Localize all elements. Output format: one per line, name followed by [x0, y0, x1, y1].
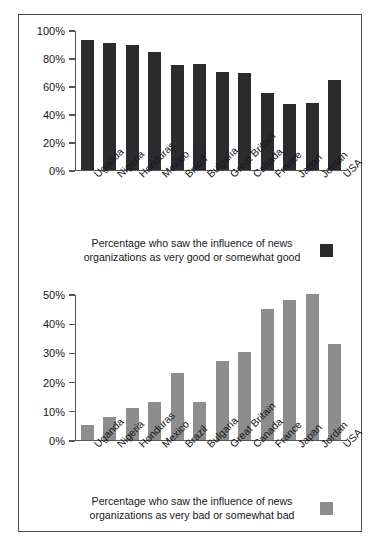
legend-swatch-bad	[320, 502, 333, 515]
chart-panel-bad: 0%10%20%30%40%50% UgandaNigeriaHondurasM…	[19, 277, 363, 531]
chart-panel-good: 0%20%40%60%80%100% UgandaNigeriaHonduras…	[19, 15, 363, 277]
y-tick-label-good-20: 20%	[43, 137, 65, 148]
x-axis-category-labels-bad: UgandaNigeriaHondurasMexicoBrazilBulgari…	[76, 442, 348, 502]
y-tick-label-bad-40: 40%	[43, 319, 65, 330]
bar	[81, 425, 94, 440]
legend-label-bad-line2: organizations as very bad or somewhat ba…	[90, 509, 295, 521]
legend-label-good: Percentage who saw the influence of news…	[71, 237, 313, 264]
y-tick-good-40: 40%	[69, 114, 75, 115]
y-tick-bad-20: 20%	[69, 382, 75, 383]
legend-label-good-line1: Percentage who saw the influence of news	[92, 237, 293, 249]
legend-label-bad: Percentage who saw the influence of news…	[71, 495, 313, 522]
y-tick-label-bad-10: 10%	[43, 406, 65, 417]
y-tick-good-0: 0%	[69, 170, 75, 171]
bar	[306, 294, 319, 440]
y-tick-bad-40: 40%	[69, 324, 75, 325]
y-tick-label-good-40: 40%	[43, 109, 65, 120]
y-tick-label-good-80: 80%	[43, 53, 65, 64]
y-tick-good-100: 100%	[69, 30, 75, 31]
y-tick-bad-0: 0%	[69, 440, 75, 441]
x-axis-category-labels-good: UgandaNigeriaHondurasMexicoBrazilBulgari…	[76, 172, 348, 232]
y-tick-bad-30: 30%	[69, 353, 75, 354]
legend-bad: Percentage who saw the influence of news…	[71, 495, 333, 522]
y-tick-label-bad-20: 20%	[43, 377, 65, 388]
legend-label-bad-line1: Percentage who saw the influence of news	[92, 495, 293, 507]
legend-swatch-good	[320, 244, 333, 257]
y-tick-bad-50: 50%	[69, 294, 75, 295]
y-tick-label-bad-30: 30%	[43, 348, 65, 359]
y-tick-good-60: 60%	[69, 86, 75, 87]
figure-frame: 0%20%40%60%80%100% UgandaNigeriaHonduras…	[18, 14, 362, 532]
y-tick-label-good-60: 60%	[43, 81, 65, 92]
y-tick-good-20: 20%	[69, 142, 75, 143]
y-tick-bad-10: 10%	[69, 411, 75, 412]
legend-good: Percentage who saw the influence of news…	[71, 237, 333, 264]
y-tick-label-bad-50: 50%	[43, 290, 65, 301]
bar	[81, 40, 94, 170]
y-tick-label-good-100: 100%	[37, 26, 65, 37]
y-tick-good-80: 80%	[69, 58, 75, 59]
legend-label-good-line2: organizations as very good or somewhat g…	[84, 251, 301, 263]
y-tick-label-bad-0: 0%	[49, 435, 65, 446]
y-tick-label-good-0: 0%	[49, 165, 65, 176]
